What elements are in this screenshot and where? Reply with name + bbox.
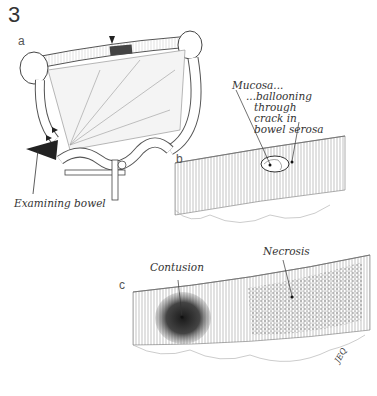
arrowhead-icon [109, 36, 115, 44]
label-examining-bowel: Examining bowel [14, 198, 106, 209]
figure-number: 3 [8, 2, 20, 28]
panel-a-letter: a [18, 34, 25, 48]
panel-b-letter: b [176, 152, 183, 166]
label-contusion: Contusion [150, 262, 204, 273]
leader-line [33, 150, 38, 194]
label-bowel-serosa: bowel serosa [232, 124, 324, 135]
panel-c-letter: c [119, 278, 125, 292]
label-necrosis: Necrosis [263, 246, 310, 257]
label-mucosa-group: Mucosa... ...ballooning through crack in… [232, 80, 324, 135]
